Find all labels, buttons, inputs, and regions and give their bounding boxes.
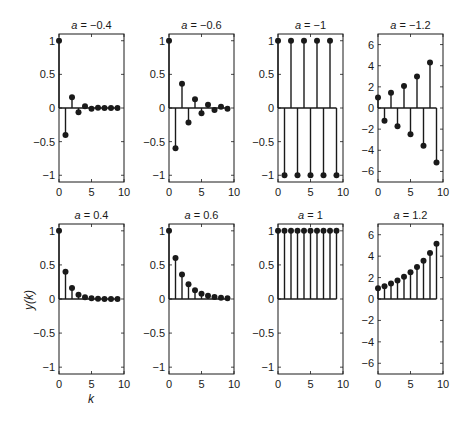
stem-marker <box>421 143 427 149</box>
stem-marker <box>76 109 82 115</box>
y-tick-label: 1 <box>268 225 274 237</box>
x-tick-label: 10 <box>437 186 449 198</box>
y-tick-label: 0 <box>368 102 374 114</box>
stem-marker <box>334 228 340 234</box>
stem-marker <box>382 283 388 289</box>
y-tick-label: 0 <box>49 102 55 114</box>
stem-marker <box>275 228 281 234</box>
stem-marker <box>89 106 95 112</box>
subplot-4: a = −1.26420−2−4−60510 <box>361 19 449 198</box>
stem-marker <box>421 258 427 264</box>
stem-marker <box>414 73 420 79</box>
stem-marker <box>199 110 205 116</box>
stem-marker <box>401 83 407 89</box>
stem-marker <box>308 172 314 178</box>
stem-marker <box>321 228 327 234</box>
subplot-1: a = −0.410.50−0.5−10510 <box>33 19 130 198</box>
y-tick-label: −1 <box>152 169 165 181</box>
stem-marker <box>395 277 401 283</box>
y-tick-label: 0 <box>49 293 55 305</box>
y-tick-label: 0 <box>159 293 165 305</box>
stem-marker <box>295 228 301 234</box>
x-tick-label: 0 <box>166 186 172 198</box>
stem-marker <box>218 104 224 110</box>
y-tick-label: −0.5 <box>33 136 55 148</box>
y-tick-label: 6 <box>368 229 374 241</box>
y-tick-label: 4 <box>368 250 374 262</box>
y-tick-label: 1 <box>159 35 165 47</box>
y-tick-label: −0.5 <box>252 136 274 148</box>
subplot-3: a = −110.50−0.5−10510 <box>252 19 349 198</box>
stem-marker <box>82 103 88 109</box>
stem-marker <box>375 94 381 100</box>
y-tick-label: 4 <box>368 60 374 72</box>
stem-marker <box>225 106 231 112</box>
stem-marker <box>395 123 401 129</box>
stem-marker <box>95 296 101 302</box>
stem-marker <box>327 38 333 44</box>
stem-marker <box>382 118 388 124</box>
stem-marker <box>388 90 394 96</box>
stem-marker <box>108 296 114 302</box>
stem-marker <box>192 96 198 102</box>
stem-marker <box>427 250 433 256</box>
stem-marker <box>205 102 211 108</box>
y-tick-label: 1 <box>49 225 55 237</box>
stem-marker <box>301 38 307 44</box>
y-tick-label: 0 <box>268 293 274 305</box>
x-tick-label: 0 <box>375 186 381 198</box>
y-tick-label: −0.5 <box>143 327 165 339</box>
stem-marker <box>186 281 192 287</box>
x-tick-label: 0 <box>275 186 281 198</box>
y-tick-label: 0.5 <box>40 259 55 271</box>
stem-marker <box>166 228 172 234</box>
stem-marker <box>401 274 407 280</box>
stem-marker <box>218 295 224 301</box>
y-tick-label: −0.5 <box>252 327 274 339</box>
stem-marker <box>314 38 320 44</box>
y-tick-label: −1 <box>42 361 55 373</box>
x-tick-label: 0 <box>56 378 62 390</box>
y-tick-label: −1 <box>42 169 55 181</box>
stem-marker <box>212 294 218 300</box>
x-tick-label: 10 <box>337 186 349 198</box>
y-tick-label: −1 <box>152 361 165 373</box>
stem-marker <box>308 228 314 234</box>
stem-marker <box>327 228 333 234</box>
subplot-title: a = 1.2 <box>394 209 428 221</box>
x-tick-label: 0 <box>275 378 281 390</box>
subplot-title: a = 0.6 <box>185 209 219 221</box>
y-tick-label: 0 <box>368 293 374 305</box>
y-axis-label: y(k) <box>22 290 36 311</box>
y-tick-label: −2 <box>361 123 374 135</box>
stem-marker <box>314 228 320 234</box>
y-tick-label: 1 <box>159 225 165 237</box>
y-tick-label: 6 <box>368 39 374 51</box>
stem-marker <box>427 60 433 66</box>
stem-marker <box>166 38 172 44</box>
subplot-title: a = −1.2 <box>390 19 430 31</box>
stem-marker <box>288 38 294 44</box>
y-tick-label: 0.5 <box>40 68 55 80</box>
stem-marker <box>275 38 281 44</box>
x-tick-label: 10 <box>337 378 349 390</box>
x-tick-label: 10 <box>118 378 130 390</box>
stem-marker <box>76 292 82 298</box>
stem-marker <box>82 294 88 300</box>
y-tick-label: 0.5 <box>259 259 274 271</box>
y-tick-label: −4 <box>361 144 374 156</box>
stem-marker <box>388 281 394 287</box>
stem-marker <box>186 120 192 126</box>
y-tick-label: −6 <box>361 357 374 369</box>
subplot-2: a = −0.610.50−0.5−10510 <box>143 19 240 198</box>
y-tick-label: 1 <box>49 35 55 47</box>
stem-marker <box>115 105 121 111</box>
stem-marker <box>63 132 69 138</box>
stem-marker <box>95 105 101 111</box>
stem-marker <box>408 131 414 137</box>
y-tick-label: −6 <box>361 165 374 177</box>
stem-marker <box>321 172 327 178</box>
x-tick-label: 10 <box>228 378 240 390</box>
x-tick-label: 5 <box>407 378 413 390</box>
stem-marker <box>56 38 62 44</box>
